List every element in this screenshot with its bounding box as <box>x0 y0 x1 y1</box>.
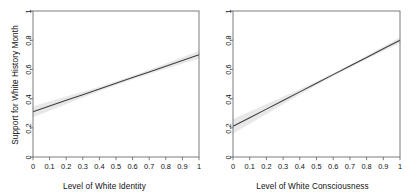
x-tick-label: 0.7 <box>144 162 154 171</box>
x-axis-title-left: Level of White Identity <box>0 182 209 191</box>
x-tick-label: 0.1 <box>245 162 255 171</box>
x-tick-label: 0.3 <box>78 162 88 171</box>
y-tick-label: 1 <box>24 6 33 18</box>
confidence-band <box>33 51 199 117</box>
y-tick-label: 0.8 <box>24 35 33 47</box>
figure-two-panel-regression: Level of White Identity Support for Whit… <box>0 0 417 195</box>
x-tick-label: 0.6 <box>328 162 338 171</box>
y-tick-label: 0.4 <box>224 93 233 105</box>
x-tick-label: 0.9 <box>177 162 187 171</box>
x-tick-label: 0.2 <box>61 162 71 171</box>
y-tick-label: 0 <box>24 152 33 164</box>
x-tick-label: 0.2 <box>261 162 271 171</box>
x-axis-title-right: Level of White Consciousness <box>208 182 417 191</box>
x-tick-label: 0.3 <box>278 162 288 171</box>
x-tick-label: 1 <box>398 162 402 171</box>
y-tick-label: 0.6 <box>24 64 33 76</box>
y-tick-label: 0 <box>224 152 233 164</box>
confidence-band <box>233 38 400 134</box>
y-tick-label: 0.8 <box>224 35 233 47</box>
panel-white-consciousness: Level of White Consciousness 00.10.20.30… <box>208 0 417 195</box>
x-tick-label: 0.1 <box>44 162 54 171</box>
x-tick-label: 0.5 <box>311 162 321 171</box>
panel-white-identity: Level of White Identity Support for Whit… <box>0 0 209 195</box>
y-tick-label: 0.6 <box>224 64 233 76</box>
y-tick-label: 1 <box>224 6 233 18</box>
x-tick-label: 0.5 <box>111 162 121 171</box>
x-tick-label: 1 <box>197 162 201 171</box>
x-tick-label: 0.8 <box>361 162 371 171</box>
fitted-line <box>233 40 400 126</box>
y-tick-label: 0.2 <box>224 122 233 134</box>
x-tick-label: 0.4 <box>295 162 305 171</box>
y-tick-label: 0.4 <box>24 93 33 105</box>
x-tick-label: 0.4 <box>94 162 104 171</box>
y-axis-title-left: Support for White History Month <box>11 10 20 160</box>
y-tick-label: 0.2 <box>24 122 33 134</box>
x-tick-label: 0.7 <box>345 162 355 171</box>
fitted-line <box>33 55 199 112</box>
x-tick-label: 0.9 <box>378 162 388 171</box>
x-tick-label: 0.8 <box>161 162 171 171</box>
x-tick-label: 0.6 <box>127 162 137 171</box>
